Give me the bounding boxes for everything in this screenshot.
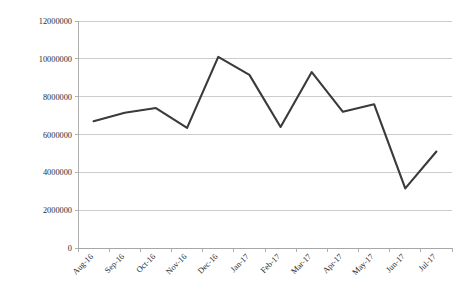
xtick-labels-group: Aug-16Sep-16Oct-16Nov-16Dec-16Jan-17Feb-… <box>71 252 438 277</box>
x-axis-tick-label: Nov-16 <box>164 252 188 276</box>
y-axis-tick-label: 4000000 <box>43 168 72 177</box>
x-axis-tick-label: Jan-17 <box>229 252 251 274</box>
x-axis-tick-label: Aug-16 <box>71 252 95 276</box>
y-axis-tick-label: 6000000 <box>43 131 72 140</box>
x-axis-tick-label: Mar-17 <box>289 252 313 276</box>
y-axis-tick-label: 2000000 <box>43 206 72 215</box>
line-chart: 0200000040000006000000800000010000000120… <box>0 0 465 302</box>
x-axis-tick-label: May-17 <box>351 252 376 277</box>
x-axis-tick-label: Apr-17 <box>321 252 344 275</box>
gridlines-group <box>75 21 452 248</box>
y-axis-tick-label: 10000000 <box>39 55 72 64</box>
y-axis-tick-label: 8000000 <box>43 93 72 102</box>
series-group <box>94 57 437 188</box>
ytick-labels-group: 0200000040000006000000800000010000000120… <box>39 17 72 253</box>
chart-canvas: 0200000040000006000000800000010000000120… <box>0 0 465 302</box>
data-series-line <box>94 57 437 188</box>
xtick-marks-group <box>78 248 452 252</box>
x-axis-tick-label: Oct-16 <box>135 252 158 275</box>
y-axis-tick-label: 0 <box>68 244 72 253</box>
x-axis-tick-label: Feb-17 <box>259 252 282 275</box>
x-axis-tick-label: Jul-17 <box>417 252 438 273</box>
x-axis-tick-label: Sep-16 <box>103 252 126 275</box>
y-axis-tick-label: 12000000 <box>39 17 72 26</box>
x-axis-tick-label: Dec-16 <box>196 252 220 276</box>
x-axis-tick-label: Jun-17 <box>384 252 406 274</box>
